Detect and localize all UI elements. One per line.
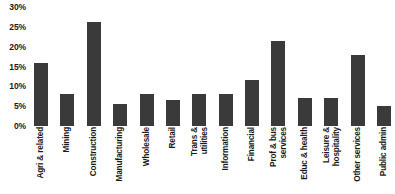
bar-slot xyxy=(136,0,158,127)
x-label-slot: Other services xyxy=(347,127,369,194)
bar[interactable] xyxy=(351,55,365,126)
y-axis: 0%5%10%15%20%25%30% xyxy=(0,0,28,130)
x-tick-label: Mining xyxy=(63,127,73,152)
x-tick-label: Prof & busservices xyxy=(269,127,288,167)
x-label-slot: Financial xyxy=(241,127,263,194)
x-tick-label: Construction xyxy=(89,127,99,176)
bar[interactable] xyxy=(377,106,391,126)
bar-slot xyxy=(347,0,369,127)
x-tick-label: Retail xyxy=(168,127,178,148)
x-label-slot: Leisure &hospitality xyxy=(320,127,342,194)
bar-slot xyxy=(215,0,237,127)
bar[interactable] xyxy=(166,100,180,126)
x-tick-label: Manufacturing xyxy=(115,127,125,181)
bar[interactable] xyxy=(219,94,233,126)
bar[interactable] xyxy=(298,98,312,126)
bar-slot xyxy=(56,0,78,127)
bar-slot xyxy=(30,0,52,127)
x-label-slot: Information xyxy=(215,127,237,194)
x-tick-label: Public admin xyxy=(379,127,389,176)
x-tick-label: Wholesale xyxy=(142,127,152,166)
plot-area xyxy=(28,0,395,127)
x-tick-label: Information xyxy=(221,127,231,170)
x-tick-label: Educ & health xyxy=(300,127,310,180)
x-label-slot: Construction xyxy=(83,127,105,194)
x-label-slot: Educ & health xyxy=(294,127,316,194)
bar-chart: 0%5%10%15%20%25%30% Agri & relatedMining… xyxy=(0,0,395,194)
x-label-slot: Manufacturing xyxy=(109,127,131,194)
x-label-slot: Mining xyxy=(56,127,78,194)
x-label-slot: Retail xyxy=(162,127,184,194)
x-tick-label: Trans &utilities xyxy=(190,127,209,156)
x-tick-label: Agri & related xyxy=(36,127,46,179)
x-label-slot: Agri & related xyxy=(30,127,52,194)
y-tick-label: 5% xyxy=(14,102,26,111)
x-label-slot: Public admin xyxy=(373,127,395,194)
x-tick-label: Leisure &hospitality xyxy=(322,127,341,166)
x-tick-label: Financial xyxy=(247,127,257,161)
y-tick-label: 15% xyxy=(9,62,26,71)
bar-slot xyxy=(373,0,395,127)
bar[interactable] xyxy=(60,94,74,126)
bar[interactable] xyxy=(87,22,101,126)
x-label-slot: Trans &utilities xyxy=(188,127,210,194)
bar-slot xyxy=(241,0,263,127)
bar-slot xyxy=(267,0,289,127)
y-tick-label: 10% xyxy=(9,82,26,91)
bar-slot xyxy=(188,0,210,127)
bar-slot xyxy=(83,0,105,127)
y-tick-label: 25% xyxy=(9,22,26,31)
bar[interactable] xyxy=(192,94,206,126)
bar[interactable] xyxy=(271,41,285,126)
x-axis: Agri & relatedMiningConstructionManufact… xyxy=(28,127,395,194)
y-tick-label: 30% xyxy=(9,3,26,12)
bar-slot xyxy=(109,0,131,127)
x-label-slot: Prof & busservices xyxy=(267,127,289,194)
bar[interactable] xyxy=(113,104,127,126)
bar-slot xyxy=(294,0,316,127)
x-tick-label: Other services xyxy=(353,127,363,182)
bar[interactable] xyxy=(34,63,48,126)
bar-slot xyxy=(320,0,342,127)
bar-slot xyxy=(162,0,184,127)
x-label-slot: Wholesale xyxy=(136,127,158,194)
bar[interactable] xyxy=(140,94,154,126)
y-tick-label: 0% xyxy=(14,122,26,131)
y-tick-label: 20% xyxy=(9,42,26,51)
bar[interactable] xyxy=(245,80,259,126)
bar[interactable] xyxy=(324,98,338,126)
